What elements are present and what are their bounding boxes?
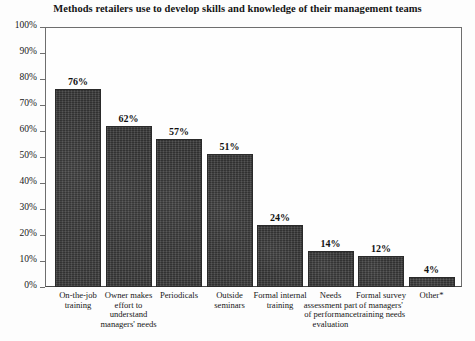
bar-value-label: 4% (402, 264, 462, 275)
bar-chart: Methods retailers use to develop skills … (0, 0, 475, 341)
x-axis-category-label: Needs assessment part of performance eva… (302, 291, 360, 329)
bar[interactable] (207, 154, 253, 287)
y-axis-tick-label: 60% (20, 124, 37, 134)
y-axis-tick-label: 50% (20, 150, 37, 160)
x-axis-category-label: Outside seminars (201, 291, 259, 310)
y-axis-tick-label: 30% (20, 202, 37, 212)
y-axis: 0%10%20%30%40%50%60%70%80%90%100% (0, 27, 45, 288)
bar-value-label: 12% (351, 243, 411, 254)
bars-layer: 76%62%57%51%24%14%12%4% (45, 27, 462, 287)
chart-title: Methods retailers use to develop skills … (0, 3, 475, 14)
bar-value-label: 57% (149, 126, 209, 137)
x-axis-category-label: Other* (403, 291, 461, 301)
bar[interactable] (409, 277, 455, 287)
y-axis-tick-mark (40, 287, 45, 288)
x-axis-category-label: On-the-job training (49, 291, 107, 310)
y-axis-tick-label: 20% (20, 228, 37, 238)
y-axis-tick-label: 90% (20, 46, 37, 56)
x-axis-labels: On-the-job trainingOwner makes effort to… (45, 291, 462, 341)
bar[interactable] (156, 139, 202, 287)
x-axis-category-label: Owner makes effort to understand manager… (100, 291, 158, 329)
bar-value-label: 51% (200, 141, 260, 152)
y-axis-tick-label: 80% (20, 72, 37, 82)
x-axis-category-label: Periodicals (150, 291, 208, 301)
bar-value-label: 62% (99, 113, 159, 124)
bar[interactable] (106, 126, 152, 287)
y-axis-tick-label: 10% (20, 254, 37, 264)
bar-value-label: 76% (48, 76, 108, 87)
bar-value-label: 24% (250, 212, 310, 223)
bar[interactable] (308, 251, 354, 287)
x-axis-category-label: Formal internal training (251, 291, 309, 310)
bar[interactable] (358, 256, 404, 287)
y-axis-tick-label: 70% (20, 98, 37, 108)
y-axis-tick-label: 0% (24, 280, 37, 290)
bar[interactable] (55, 89, 101, 287)
x-axis-category-label: Formal survey of managers' training need… (352, 291, 410, 320)
bar[interactable] (257, 225, 303, 287)
y-axis-tick-label: 40% (20, 176, 37, 186)
y-axis-tick-label: 100% (15, 20, 37, 30)
